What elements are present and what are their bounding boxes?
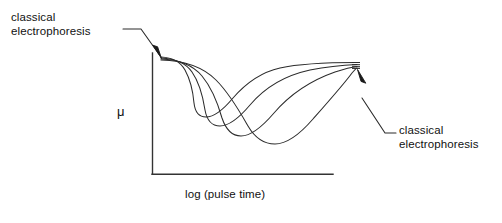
label-left-line-1: classical	[11, 10, 90, 24]
arrowhead-right	[358, 70, 366, 84]
arrowhead-left	[153, 45, 162, 58]
label-left-line-2: electrophoresis	[11, 24, 90, 38]
classical-electrophoresis-label-left: classical electrophoresis	[11, 10, 90, 38]
curves-group	[161, 57, 357, 144]
figure-root: classical electrophoresis classical elec…	[0, 0, 502, 223]
y-axis-label: μ	[117, 104, 125, 119]
leader-line-right	[358, 70, 397, 134]
label-right-line-2: electrophoresis	[399, 137, 478, 151]
x-axis-label: log (pulse time)	[185, 188, 265, 200]
mobility-curve-4	[161, 60, 357, 144]
label-right-line-1: classical	[399, 123, 478, 137]
leader-line-left	[123, 29, 162, 59]
mobility-curve-2	[161, 58, 357, 126]
classical-electrophoresis-label-right: classical electrophoresis	[399, 123, 478, 151]
